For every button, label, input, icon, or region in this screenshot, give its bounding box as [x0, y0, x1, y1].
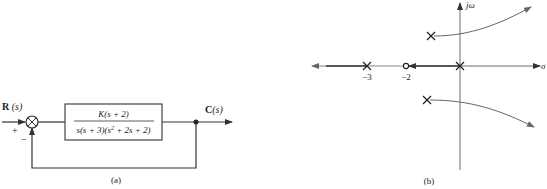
tick-label-minus-2: −2 [401, 72, 411, 82]
real-axis-label: σ [541, 61, 546, 71]
zero-minus-2-icon [403, 63, 408, 68]
caption-a: (a) [111, 175, 121, 185]
root-locus-plot: σ jω −3 −2 (b) [312, 0, 546, 186]
summing-junction-icon [26, 116, 38, 128]
input-label: R (s) [2, 101, 23, 113]
tick-label-minus-3: −3 [362, 72, 372, 82]
tf-numerator: K(s + 2) [97, 109, 129, 119]
plus-sign: + [12, 125, 18, 136]
locus-branch-lower [430, 100, 534, 127]
imaginary-axis-label: jω [465, 0, 475, 10]
locus-branch-upper [434, 7, 531, 36]
output-label: C(s) [205, 104, 223, 116]
minus-sign: − [21, 134, 27, 145]
caption-b: (b) [424, 176, 435, 186]
pole-complex-upper-icon [427, 32, 435, 40]
tf-denominator: s(s + 3)(s2 + 2s + 2) [76, 125, 150, 135]
pole-complex-lower-icon [423, 96, 431, 104]
figure-canvas: R (s) + − K(s + 2) s(s + 3)(s2 + 2s + 2)… [0, 0, 547, 189]
block-diagram: R (s) + − K(s + 2) s(s + 3)(s2 + 2s + 2)… [2, 101, 232, 185]
